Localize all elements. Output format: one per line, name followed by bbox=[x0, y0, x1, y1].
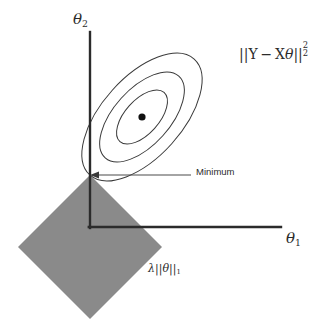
rss-term-norm: ||Y − X bbox=[239, 46, 285, 62]
y-axis-label-subscript: 2 bbox=[82, 18, 88, 29]
l1-penalty-label: λ||θ||1 bbox=[148, 263, 181, 276]
l1-subscript: 1 bbox=[176, 268, 180, 276]
l1-lambda: λ bbox=[148, 262, 155, 275]
rss-term-label: ||Y − Xθ||22 bbox=[239, 45, 312, 61]
minimum-label: Minimum bbox=[196, 167, 235, 177]
lasso-geometry-figure: θ2 θ1 ||Y − Xθ||22 Minimum λ||θ||1 bbox=[0, 0, 315, 335]
x-axis-label-subscript: 1 bbox=[295, 237, 301, 248]
rss-term-norm-close: || bbox=[293, 46, 302, 62]
ols-center-dot bbox=[138, 113, 145, 120]
x-axis-label: θ1 bbox=[286, 231, 301, 247]
y-axis-label: θ2 bbox=[73, 12, 88, 28]
rss-term-exponents: 22 bbox=[303, 45, 312, 59]
rss-term-subscript: 2 bbox=[303, 49, 308, 57]
